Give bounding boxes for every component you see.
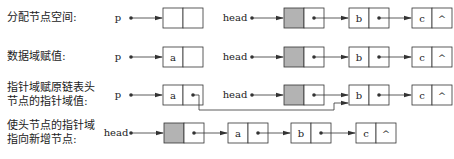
- node-data: b: [356, 90, 362, 101]
- pointer-label: p: [115, 12, 121, 23]
- new-node: [163, 47, 203, 67]
- pointer-label: p: [115, 51, 121, 62]
- node-data: c: [419, 52, 425, 63]
- node-data: c: [419, 90, 425, 101]
- head-label: head: [223, 12, 248, 23]
- node-data: b: [298, 128, 304, 139]
- pointer-label: p: [115, 89, 121, 100]
- null-pointer: ^: [382, 128, 390, 139]
- connector-arrow: [193, 95, 348, 110]
- node-data: a: [235, 128, 241, 139]
- head-label: head: [104, 127, 129, 138]
- node-data: c: [363, 128, 369, 139]
- new-node: [163, 8, 203, 28]
- node-data: c: [419, 13, 425, 24]
- linked-list-diagram: pheadbc^paheadbc^paheadbc^headabc^: [0, 0, 454, 159]
- head-label: head: [223, 51, 248, 62]
- node-data: a: [170, 90, 176, 101]
- null-pointer: ^: [438, 13, 446, 24]
- head-label: head: [223, 89, 248, 100]
- node-data: a: [170, 52, 176, 63]
- node-data: b: [356, 13, 362, 24]
- null-pointer: ^: [438, 52, 446, 63]
- null-pointer: ^: [438, 90, 446, 101]
- node-data: b: [356, 52, 362, 63]
